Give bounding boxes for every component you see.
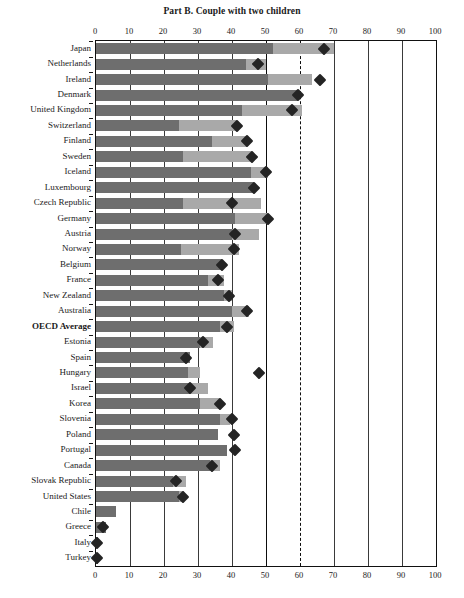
x-axis-tick-50: 50 bbox=[261, 26, 270, 36]
bar-new-zealand bbox=[96, 290, 436, 301]
bar-netherlands bbox=[96, 59, 436, 70]
category-label-estonia: Estonia bbox=[64, 336, 91, 347]
x-axis-tick-20: 20 bbox=[159, 570, 168, 580]
bar-segment-dark bbox=[96, 306, 232, 317]
category-label-australia: Australia bbox=[58, 305, 91, 316]
category-tick bbox=[89, 196, 93, 197]
bar-japan bbox=[96, 43, 436, 54]
category-tick bbox=[89, 427, 93, 428]
chart-title: Part B. Couple with two children bbox=[0, 6, 464, 16]
x-axis-tick-80: 80 bbox=[363, 570, 372, 580]
bar-segment-dark bbox=[96, 398, 200, 409]
bar-segment-dark bbox=[96, 182, 254, 193]
bar-segment-dark bbox=[96, 229, 232, 240]
category-tick bbox=[89, 535, 93, 536]
x-axis-tick-50: 50 bbox=[261, 570, 270, 580]
bar-italy bbox=[96, 537, 436, 548]
plot-area bbox=[95, 40, 437, 567]
category-tick bbox=[89, 489, 93, 490]
x-axis-tick-20: 20 bbox=[159, 26, 168, 36]
bar-segment-dark bbox=[96, 120, 179, 131]
bar-segment-dark bbox=[96, 383, 190, 394]
x-axis-tick-90: 90 bbox=[397, 570, 406, 580]
bar-segment-dark bbox=[96, 90, 298, 101]
bar-segment-dark bbox=[96, 476, 173, 487]
bar-norway bbox=[96, 244, 436, 255]
category-label-korea: Korea bbox=[69, 397, 91, 408]
category-tick bbox=[89, 103, 93, 104]
bar-poland bbox=[96, 429, 436, 440]
bar-canada bbox=[96, 460, 436, 471]
category-tick bbox=[89, 520, 93, 521]
x-axis-tick-30: 30 bbox=[193, 26, 202, 36]
category-label-belgium: Belgium bbox=[60, 258, 91, 269]
bar-segment-dark bbox=[96, 136, 212, 147]
bar-united-states bbox=[96, 491, 436, 502]
category-tick bbox=[89, 551, 93, 552]
bar-segment-dark bbox=[96, 259, 222, 270]
category-tick bbox=[89, 180, 93, 181]
bar-segment-dark bbox=[96, 198, 183, 209]
category-label-israel: Israel bbox=[71, 382, 91, 393]
category-tick bbox=[89, 365, 93, 366]
x-axis-tick-100: 100 bbox=[429, 570, 442, 580]
bar-segment-dark bbox=[96, 506, 116, 517]
category-tick bbox=[89, 118, 93, 119]
x-axis-tick-10: 10 bbox=[125, 570, 134, 580]
category-label-hungary: Hungary bbox=[60, 366, 92, 377]
x-axis-tick-40: 40 bbox=[227, 26, 236, 36]
category-label-united-states: United States bbox=[43, 490, 91, 501]
bar-korea bbox=[96, 398, 436, 409]
bar-segment-dark bbox=[96, 367, 188, 378]
category-label-turkey: Turkey bbox=[65, 552, 91, 563]
x-axis-tick-30: 30 bbox=[193, 570, 202, 580]
bar-chile bbox=[96, 506, 436, 517]
category-label-slovenia: Slovenia bbox=[60, 413, 92, 424]
bar-finland bbox=[96, 136, 436, 147]
category-tick bbox=[89, 381, 93, 382]
bar-segment-dark bbox=[96, 275, 208, 286]
category-tick bbox=[89, 443, 93, 444]
bar-estonia bbox=[96, 337, 436, 348]
bar-segment-dark bbox=[96, 151, 183, 162]
bar-segment-dark bbox=[96, 43, 273, 54]
category-tick bbox=[89, 350, 93, 351]
category-label-new-zealand: New Zealand bbox=[43, 289, 91, 300]
category-tick bbox=[89, 504, 93, 505]
bar-segment-dark bbox=[96, 445, 227, 456]
x-axis-tick-0: 0 bbox=[93, 26, 97, 36]
category-label-austria: Austria bbox=[65, 228, 92, 239]
category-label-poland: Poland bbox=[66, 428, 91, 439]
category-tick bbox=[89, 57, 93, 58]
category-label-denmark: Denmark bbox=[58, 89, 92, 100]
category-label-germany: Germany bbox=[58, 212, 92, 223]
category-tick bbox=[89, 412, 93, 413]
bar-portugal bbox=[96, 445, 436, 456]
x-axis-tick-60: 60 bbox=[295, 26, 304, 36]
category-tick bbox=[89, 396, 93, 397]
category-tick bbox=[89, 458, 93, 459]
x-axis-tick-70: 70 bbox=[329, 570, 338, 580]
category-label-italy: Italy bbox=[75, 536, 92, 547]
bar-sweden bbox=[96, 151, 436, 162]
category-label-france: France bbox=[67, 274, 92, 285]
bar-slovak-republic bbox=[96, 476, 436, 487]
bar-segment-dark bbox=[96, 105, 242, 116]
category-tick bbox=[89, 288, 93, 289]
bar-israel bbox=[96, 383, 436, 394]
category-label-slovak-republic: Slovak Republic bbox=[31, 475, 91, 486]
category-tick bbox=[89, 88, 93, 89]
bar-switzerland bbox=[96, 120, 436, 131]
bar-segment-dark bbox=[96, 491, 179, 502]
bar-segment-dark bbox=[96, 74, 268, 85]
x-axis-tick-80: 80 bbox=[363, 26, 372, 36]
x-axis-tick-60: 60 bbox=[295, 570, 304, 580]
bar-hungary bbox=[96, 367, 436, 378]
bar-segment-dark bbox=[96, 460, 210, 471]
bar-denmark bbox=[96, 90, 436, 101]
category-label-luxembourg: Luxembourg bbox=[45, 181, 91, 192]
bar-segment-dark bbox=[96, 290, 224, 301]
bar-segment-dark bbox=[96, 429, 218, 440]
bar-slovenia bbox=[96, 414, 436, 425]
category-tick bbox=[89, 41, 93, 42]
